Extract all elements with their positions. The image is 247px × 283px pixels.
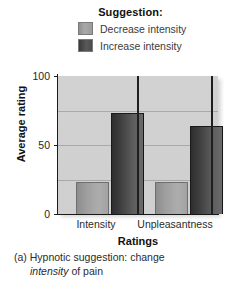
caption-line-2: intensity of pain bbox=[14, 265, 239, 279]
ytick-label-100: 100 bbox=[32, 70, 50, 82]
right-border-line bbox=[211, 76, 213, 214]
caption-suffix: of pain bbox=[69, 265, 103, 277]
figure-caption: (a) Hypnotic suggestion: change intensit… bbox=[14, 251, 239, 278]
caption-line-1: (a) Hypnotic suggestion: change bbox=[14, 251, 165, 263]
x-axis-line bbox=[57, 214, 219, 215]
bar-unpleasantness-increase bbox=[190, 126, 223, 214]
group-separator-line bbox=[137, 76, 139, 214]
y-axis-title: Average rating bbox=[15, 79, 27, 169]
caption-emphasis: intensity bbox=[30, 265, 69, 277]
ytick-label-50: 50 bbox=[38, 139, 50, 151]
plot-container: Average rating 100 50 0 bbox=[0, 0, 247, 283]
plot-area: 100 50 0 bbox=[58, 76, 218, 214]
ytick-mark-100: 100 bbox=[54, 76, 58, 77]
ytick-mark-0: 0 bbox=[54, 214, 58, 215]
ytick-label-0: 0 bbox=[44, 208, 50, 220]
bar-unpleasantness-decrease bbox=[155, 182, 188, 214]
bar-intensity-increase bbox=[111, 113, 144, 214]
x-axis-title: Ratings bbox=[58, 235, 218, 247]
xtick-label-intensity: Intensity bbox=[76, 218, 115, 230]
figure-hypnotic-suggestion-chart: Suggestion: Decrease intensity Increase … bbox=[0, 0, 247, 283]
xtick-label-unpleasantness: Unpleasantness bbox=[137, 218, 212, 230]
bar-intensity-decrease bbox=[76, 182, 109, 214]
ytick-mark-50: 50 bbox=[54, 145, 58, 146]
